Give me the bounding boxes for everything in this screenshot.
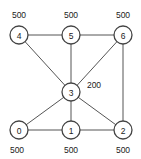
node-label: 6 [121, 31, 126, 41]
node-2: 2500 [114, 121, 132, 155]
node-label: 2 [121, 126, 126, 136]
node-value: 500 [116, 145, 130, 155]
nodes: 0500150025003200450055006500 [10, 10, 132, 155]
node-value: 500 [64, 145, 78, 155]
node-label: 1 [69, 126, 74, 136]
node-3: 3200 [62, 80, 101, 101]
edge-3-0 [19, 92, 71, 130]
edge-3-2 [71, 92, 123, 130]
node-value: 500 [12, 10, 26, 20]
node-value: 200 [87, 80, 101, 90]
node-value: 500 [10, 145, 24, 155]
edge-4-3 [19, 35, 71, 92]
node-1: 1500 [62, 121, 80, 155]
node-label: 5 [69, 31, 74, 41]
node-label: 0 [17, 126, 22, 136]
node-6: 6500 [114, 10, 132, 44]
node-value: 500 [116, 10, 130, 20]
node-5: 5500 [62, 10, 80, 44]
graph-diagram: 0500150025003200450055006500 [0, 0, 141, 159]
node-label: 3 [69, 88, 74, 98]
node-0: 0500 [10, 121, 28, 155]
node-label: 4 [17, 31, 22, 41]
node-value: 500 [64, 10, 78, 20]
node-4: 4500 [10, 10, 28, 44]
